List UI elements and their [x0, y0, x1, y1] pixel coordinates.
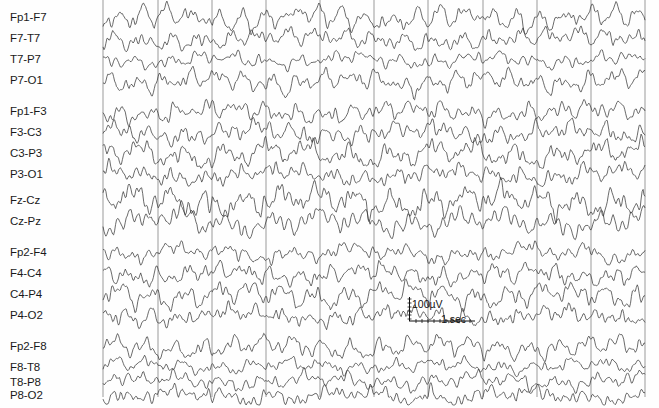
channel-label-fp2-f8: Fp2-F8: [10, 341, 46, 353]
channel-label-c3-p3: C3-P3: [10, 148, 42, 160]
channel-label-t7-p7: T7-P7: [10, 54, 41, 66]
channel-label-f3-c3: F3-C3: [10, 127, 41, 139]
calibration-marker: 100µV 1 sec: [407, 297, 479, 327]
channel-label-p7-o1: P7-O1: [10, 75, 43, 87]
calibration-amplitude-label: 100µV: [412, 299, 443, 310]
channel-label-f7-t7: F7-T7: [10, 33, 40, 45]
channel-label-p4-o2: P4-O2: [10, 310, 43, 322]
channel-label-t8-p8: T8-P8: [10, 377, 41, 389]
channel-label-column: Fp1-F7F7-T7T7-P7P7-O1Fp1-F3F3-C3C3-P3P3-…: [0, 0, 100, 408]
channel-label-p3-o1: P3-O1: [10, 169, 43, 181]
channel-label-f4-c4: F4-C4: [10, 268, 41, 280]
channel-label-fp1-f3: Fp1-F3: [10, 106, 46, 118]
channel-label-fp1-f7: Fp1-F7: [10, 12, 46, 24]
channel-label-f8-t8: F8-T8: [10, 362, 40, 374]
eeg-recording-viewer: Fp1-F7F7-T7T7-P7P7-O1Fp1-F3F3-C3C3-P3P3-…: [0, 0, 659, 408]
channel-label-p8-o2: P8-O2: [10, 390, 43, 402]
calibration-time-label: 1 sec: [441, 314, 466, 325]
channel-label-c4-p4: C4-P4: [10, 289, 42, 301]
channel-label-cz-pz: Cz-Pz: [10, 216, 41, 228]
channel-label-fz-cz: Fz-Cz: [10, 195, 40, 207]
channel-label-fp2-f4: Fp2-F4: [10, 247, 46, 259]
